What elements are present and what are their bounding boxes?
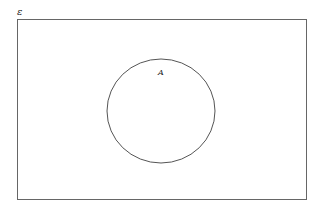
universal-set-label: ε <box>17 6 22 17</box>
venn-diagram: ε A <box>0 0 323 209</box>
set-a-label: A <box>157 68 164 77</box>
universal-set-rect <box>18 20 307 200</box>
